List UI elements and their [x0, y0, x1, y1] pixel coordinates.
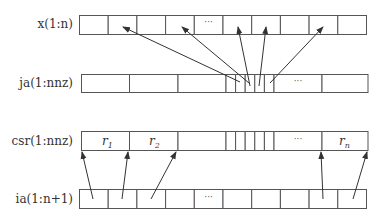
ellipsis-csr: ··· — [294, 134, 303, 144]
array-x: ··· — [80, 16, 367, 35]
ellipsis-x: ··· — [204, 17, 213, 27]
array-ja: ··· — [82, 75, 369, 93]
ellipsis-ja: ··· — [294, 76, 303, 86]
array-csr: r1 r2 ··· rn — [82, 132, 369, 151]
ellipsis-ia: ··· — [204, 192, 213, 202]
label-csr: csr(1:nnz) — [12, 134, 73, 148]
label-x: x(1:n) — [37, 17, 73, 31]
label-ja: ja(1:nnz) — [17, 76, 73, 90]
sparse-storage-diagram: x(1:n) ja(1:nnz) csr(1:nnz) ia(1:n+1) ··… — [0, 0, 386, 219]
label-ia: ia(1:n+1) — [16, 192, 73, 206]
